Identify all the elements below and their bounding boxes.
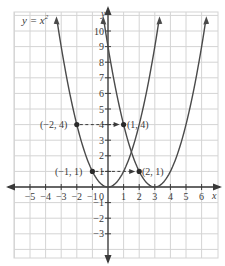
x-tick-label: −3	[56, 191, 67, 202]
point-label-neg1-1: (−1, 1)	[55, 166, 82, 178]
origin-label: 0	[99, 191, 104, 202]
x-tick-label: 5	[184, 191, 189, 202]
equation-exponent: 2	[45, 13, 49, 21]
point-label-2-1: (2, 1)	[142, 166, 164, 178]
y-tick-label: −2	[93, 213, 104, 224]
y-tick-label: −3	[93, 228, 104, 239]
equation-label: y = x2	[21, 13, 49, 26]
x-tick-label: 4	[168, 191, 173, 202]
y-tick-label: 3	[99, 135, 104, 146]
x-tick-label: 1	[121, 191, 126, 202]
point-marker	[90, 169, 95, 174]
x-tick-label: 3	[152, 191, 157, 202]
y-tick-label: 8	[99, 57, 104, 68]
x-tick-label: 6	[199, 191, 204, 202]
x-axis-left-arrow-icon	[6, 184, 15, 191]
y-tick-label: 6	[99, 88, 104, 99]
point-label-1-4: (1, 4)	[127, 119, 149, 131]
y-axis-up-arrow-icon	[105, 6, 112, 15]
equation-text: y = x	[21, 14, 45, 26]
y-axis-down-arrow-icon	[105, 255, 112, 264]
x-axis-label: x	[211, 190, 217, 201]
y-tick-label: 7	[99, 72, 104, 83]
x-tick-label: −5	[25, 191, 36, 202]
y-tick-label: 5	[99, 104, 104, 115]
x-tick-label: 2	[137, 191, 142, 202]
y-tick-label: 9	[99, 41, 104, 52]
x-tick-label: −4	[40, 191, 51, 202]
parabola-graph: −5−4−3−2−1123456−3−2−112345678910 y = x2…	[0, 0, 225, 266]
point-label-neg2-4: (−2, 4)	[40, 119, 67, 131]
grid-background	[14, 12, 218, 258]
y-tick-label: 2	[99, 150, 104, 161]
point-marker	[121, 122, 126, 127]
y-tick-label: 10	[94, 26, 104, 37]
point-marker	[74, 122, 79, 127]
y-axis-label: y	[100, 8, 106, 19]
x-tick-label: −2	[71, 191, 82, 202]
